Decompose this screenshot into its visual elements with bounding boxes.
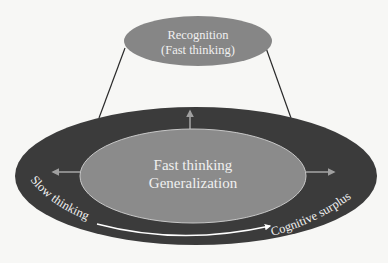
fast-thinking-node: Fast thinking Generalization xyxy=(80,129,306,223)
recognition-label-line2: (Fast thinking) xyxy=(161,43,235,57)
recognition-node: Recognition (Fast thinking) xyxy=(124,16,272,66)
cognition-diagram: Recognition (Fast thinking) Fast thinkin… xyxy=(0,0,388,263)
center-label-line2: Generalization xyxy=(149,175,238,191)
center-label-line1: Fast thinking xyxy=(154,157,233,173)
recognition-label-line1: Recognition xyxy=(167,28,229,42)
left-connector-line xyxy=(99,48,125,118)
right-connector-line xyxy=(266,48,291,118)
